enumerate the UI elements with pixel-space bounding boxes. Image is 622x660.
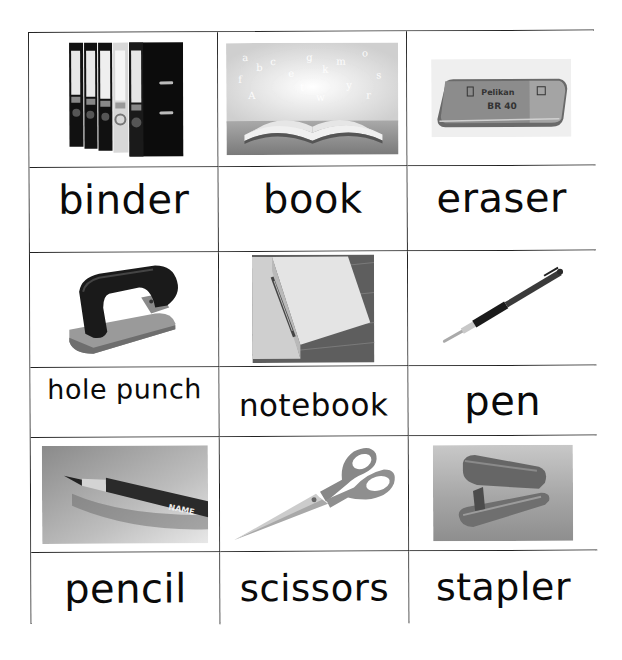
- label-cell-scissors: scissors: [220, 551, 409, 624]
- picture-cell-binder: [29, 32, 219, 168]
- eraser-brand-text: Pelikan: [481, 88, 515, 97]
- label-cell-stapler: stapler: [409, 551, 597, 624]
- svg-text:k: k: [322, 64, 329, 75]
- svg-text:t: t: [300, 82, 304, 93]
- picture-cell-pen: [408, 251, 597, 367]
- label-cell-pencil: pencil: [31, 552, 220, 625]
- word-label-binder: binder: [58, 179, 189, 220]
- svg-text:c: c: [270, 56, 276, 67]
- svg-text:s: s: [376, 69, 381, 80]
- picture-cell-scissors: [220, 436, 409, 552]
- binder-icon: [63, 40, 184, 159]
- word-label-notebook: notebook: [239, 389, 389, 421]
- svg-text:A: A: [247, 90, 256, 101]
- svg-text:w: w: [316, 92, 325, 103]
- word-label-pencil: pencil: [64, 568, 187, 609]
- svg-text:o: o: [362, 48, 368, 59]
- eraser-model-text: BR 40: [487, 101, 516, 111]
- svg-text:m: m: [336, 56, 346, 67]
- label-cell-book: book: [219, 166, 408, 252]
- svg-text:a: a: [242, 52, 248, 63]
- book-icon: abf ceg kmo srA twy: [226, 42, 398, 155]
- eraser-icon: Pelikan BR 40: [431, 59, 571, 138]
- svg-text:b: b: [256, 62, 262, 73]
- picture-cell-eraser: Pelikan BR 40: [407, 31, 596, 167]
- picture-cell-book: abf ceg kmo srA twy: [218, 31, 408, 167]
- label-cell-binder: binder: [30, 167, 219, 253]
- hole-punch-icon: [59, 261, 189, 358]
- svg-text:y: y: [345, 80, 352, 91]
- picture-cell-stapler: [409, 436, 598, 552]
- notebook-icon: [252, 254, 374, 363]
- svg-text:g: g: [306, 52, 313, 63]
- svg-text:e: e: [288, 68, 294, 79]
- picture-cell-notebook: [219, 251, 408, 367]
- picture-cell-hole-punch: [30, 252, 219, 368]
- vocabulary-card-grid: abf ceg kmo srA twy Pe: [28, 30, 597, 624]
- label-cell-notebook: notebook: [219, 366, 408, 437]
- word-label-book: book: [263, 179, 363, 219]
- word-label-eraser: eraser: [436, 178, 567, 219]
- label-cell-hole-punch: hole punch: [30, 367, 219, 438]
- svg-text:r: r: [366, 90, 371, 101]
- word-label-scissors: scissors: [240, 569, 390, 607]
- word-label-pen: pen: [464, 380, 541, 420]
- label-cell-eraser: eraser: [408, 166, 596, 252]
- word-label-stapler: stapler: [436, 568, 571, 607]
- word-label-hole-punch: hole punch: [47, 375, 202, 403]
- pen-icon: [432, 265, 572, 352]
- pencil-icon: NAME: [42, 445, 208, 544]
- scissors-icon: [230, 443, 398, 544]
- label-cell-pen: pen: [408, 366, 596, 437]
- stapler-icon: [433, 445, 573, 542]
- picture-cell-pencil: NAME: [31, 437, 220, 553]
